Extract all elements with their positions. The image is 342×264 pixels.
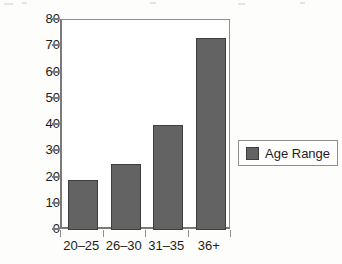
y-tick-mark [52, 228, 59, 230]
scan-artifact [300, 2, 305, 4]
legend-swatch-age-range [246, 147, 259, 160]
y-tick-mark [52, 123, 59, 125]
y-tick-mark [52, 44, 59, 46]
y-tick-mark [52, 97, 59, 99]
scan-artifact [238, 3, 245, 5]
plot-area [60, 19, 230, 229]
x-tick-label: 20–25 [60, 239, 103, 252]
x-tick-label: 31–35 [145, 239, 188, 252]
bar[interactable] [111, 164, 141, 230]
y-tick-mark [52, 202, 59, 204]
scan-artifact [4, 3, 13, 5]
x-tick-mark [145, 230, 146, 237]
y-tick-mark [52, 149, 59, 151]
scan-artifact [150, 2, 156, 4]
x-tick-label: 36+ [188, 239, 231, 252]
x-tick-mark [103, 230, 104, 237]
x-tick-mark [188, 230, 189, 237]
x-tick-mark [60, 230, 61, 237]
y-tick-mark [52, 18, 59, 20]
y-tick-mark [52, 176, 59, 178]
bar[interactable] [153, 125, 183, 230]
x-tick-mark [230, 230, 231, 237]
chart-screenshot: 01020304050607080 20–2526–3031–3536+ Age… [0, 0, 342, 264]
bar[interactable] [196, 38, 226, 230]
y-axis: 01020304050607080 [14, 0, 60, 264]
x-tick-label: 26–30 [103, 239, 146, 252]
bar[interactable] [68, 180, 98, 230]
y-tick-mark [52, 71, 59, 73]
legend[interactable]: Age Range [238, 140, 338, 166]
legend-label-age-range: Age Range [265, 147, 330, 160]
